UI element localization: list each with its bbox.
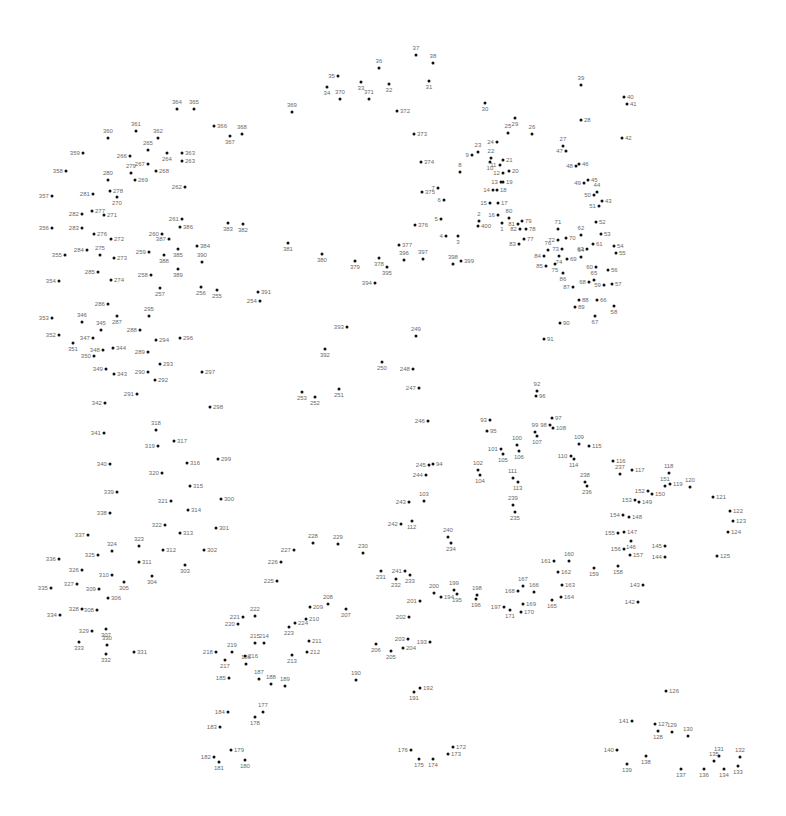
- dot-346: [81, 321, 84, 324]
- dot-302: [203, 549, 206, 552]
- dot-label: 29: [512, 121, 519, 127]
- dot-label: 64: [578, 247, 585, 253]
- dot-label: 193: [417, 639, 427, 645]
- dot-label: 36: [376, 58, 383, 64]
- dot-372: [396, 110, 399, 113]
- dot-label: 257: [155, 291, 165, 297]
- dot-387: [168, 238, 171, 241]
- dot-label: 226: [268, 559, 278, 565]
- dot-3: [457, 235, 460, 238]
- dot-label: 13: [491, 179, 498, 185]
- dot-label: 281: [80, 191, 90, 197]
- dot-label: 270: [112, 200, 122, 206]
- dot-label: 41: [630, 101, 637, 107]
- dot-138: [645, 755, 648, 758]
- dot-label: 263: [185, 158, 195, 164]
- dot-label: 173: [451, 751, 461, 757]
- dot-316: [186, 462, 189, 465]
- dot-330: [106, 644, 109, 647]
- dot-label: 213: [287, 658, 297, 664]
- dot-26: [531, 133, 534, 136]
- dot-397: [422, 258, 425, 261]
- dot-363: [181, 152, 184, 155]
- dot-276: [93, 233, 96, 236]
- dot-331: [133, 651, 136, 654]
- dot-label: 166: [529, 582, 539, 588]
- dot-label: 197: [491, 604, 501, 610]
- dot-label: 34: [324, 90, 331, 96]
- dot-7: [437, 187, 440, 190]
- dot-274: [110, 279, 113, 282]
- dot-247: [418, 387, 421, 390]
- dot-label: 207: [341, 612, 351, 618]
- dot-85: [545, 265, 548, 268]
- dot-label: 171: [505, 613, 515, 619]
- dot-282: [81, 213, 84, 216]
- dot-label: 246: [415, 418, 425, 424]
- dot-297: [201, 371, 204, 374]
- dot-164: [560, 596, 563, 599]
- dot-label: 8: [458, 162, 461, 168]
- dot-label: 71: [555, 219, 562, 225]
- dot-label: 214: [259, 633, 269, 639]
- dot-label: 320: [149, 470, 159, 476]
- dot-133: [737, 765, 740, 768]
- dot-265: [147, 149, 150, 152]
- dot-48: [575, 165, 578, 168]
- dot-label: 112: [407, 524, 417, 530]
- dot-344: [112, 347, 115, 350]
- dot-label: 11: [490, 162, 496, 168]
- dot-label: 87: [563, 284, 570, 290]
- dot-307: [105, 628, 108, 631]
- dot-label: 120: [685, 477, 695, 483]
- dot-313: [179, 532, 182, 535]
- dot-label: 78: [529, 226, 536, 232]
- dot-14: [492, 189, 495, 192]
- dot-221: [242, 616, 245, 619]
- dot-304: [151, 575, 154, 578]
- dot-label: 312: [166, 547, 176, 553]
- dot-label: 136: [699, 772, 709, 778]
- dot-label: 150: [655, 491, 665, 497]
- dot-label: 374: [424, 159, 434, 165]
- dot-label: 265: [143, 140, 153, 146]
- dot-label: 199: [449, 580, 459, 586]
- dot-362: [157, 137, 160, 140]
- dot-196: [475, 598, 478, 601]
- dot-78: [525, 228, 528, 231]
- dot-label: 76: [545, 240, 552, 246]
- dot-label: 141: [619, 718, 629, 724]
- dot-263: [181, 160, 184, 163]
- dot-label: 5: [435, 216, 438, 222]
- dot-253: [301, 391, 304, 394]
- dot-label: 21: [506, 157, 513, 163]
- dot-label: 219: [227, 642, 237, 648]
- dot-165: [551, 599, 554, 602]
- dot-label: 92: [534, 381, 541, 387]
- dot-label: 188: [266, 674, 276, 680]
- dot-label: 37: [413, 45, 420, 51]
- dot-398: [452, 263, 455, 266]
- dot-label: 26: [529, 124, 536, 130]
- dot-label: 317: [177, 438, 187, 444]
- dot-label: 121: [716, 494, 726, 500]
- dot-label: 187: [254, 669, 264, 675]
- dot-382: [242, 223, 245, 226]
- dot-label: 159: [589, 571, 599, 577]
- dot-label: 373: [417, 131, 427, 137]
- dot-199: [453, 589, 456, 592]
- dot-245: [428, 464, 431, 467]
- dot-300: [220, 498, 223, 501]
- dot-67: [594, 315, 597, 318]
- dot-254: [259, 300, 262, 303]
- dot-label: 99: [532, 422, 539, 428]
- dot-267: [147, 163, 150, 166]
- dot-44: [596, 191, 599, 194]
- dot-label: 217: [220, 663, 230, 669]
- dot-label: 176: [398, 747, 408, 753]
- dot-222: [254, 615, 257, 618]
- dot-label: 322: [152, 522, 162, 528]
- dot-label: 209: [313, 604, 323, 610]
- dot-395: [386, 266, 389, 269]
- dot-label: 196: [471, 602, 481, 608]
